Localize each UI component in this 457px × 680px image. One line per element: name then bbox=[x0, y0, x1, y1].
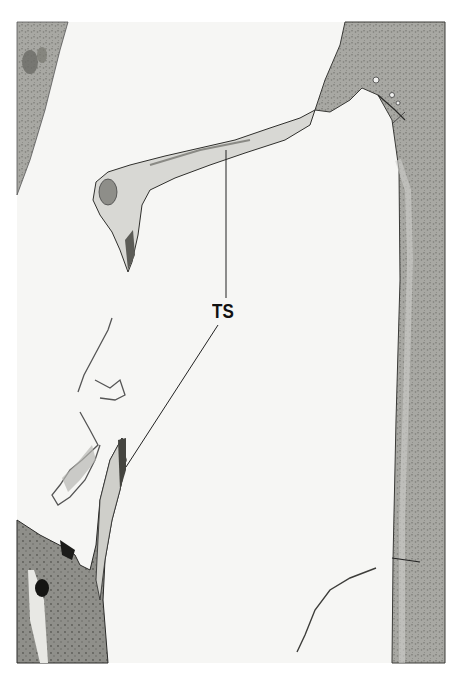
micrograph-image bbox=[0, 0, 457, 680]
structure-label: TS bbox=[212, 300, 234, 323]
